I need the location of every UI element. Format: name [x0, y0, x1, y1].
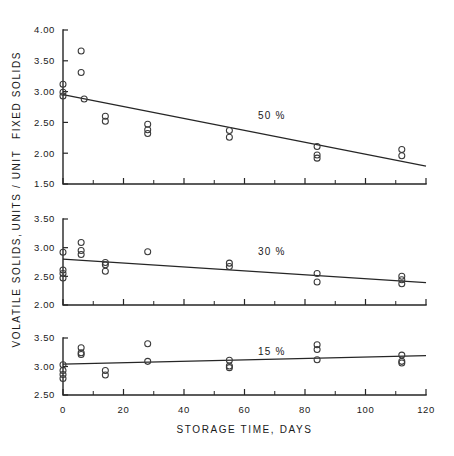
panel-15-data-point: [314, 357, 320, 363]
panel-50-data-point: [226, 127, 232, 133]
panel-30-data-point: [314, 279, 320, 285]
panel-50-data-point: [78, 70, 84, 76]
panel-30-annotation: 30 %: [258, 246, 286, 257]
panel-30-data-point: [102, 268, 108, 274]
panel-30-data-point: [78, 252, 84, 258]
panel-30-ytick-label: 3.50: [34, 213, 55, 224]
panel-30: 2.002.503.003.5030 %: [34, 213, 426, 310]
panel-50-data-point: [145, 130, 151, 136]
panel-15-data-point: [145, 341, 151, 347]
panel-50-ytick-label: 1.50: [34, 178, 55, 189]
x-tick-label: 40: [178, 404, 190, 415]
y-axis-title-line: FIXED SOLIDS: [11, 51, 22, 139]
panel-50-ytick-label: 3.00: [34, 86, 55, 97]
x-tick-label: 60: [239, 404, 251, 415]
panel-30-axes: [63, 219, 426, 305]
panel-50-annotation: 50 %: [258, 110, 286, 121]
panel-30-ytick-label: 3.00: [34, 242, 55, 253]
panel-15-data-point: [102, 372, 108, 378]
panel-15-trendline: [63, 356, 426, 365]
panel-50-data-point: [226, 134, 232, 140]
panel-50-axes: [63, 30, 426, 184]
panel-15-ytick-label: 3.50: [34, 332, 55, 343]
panel-15-ytick-label: 2.50: [34, 389, 55, 400]
panel-50-data-point: [399, 147, 405, 153]
panel-15: 2.503.003.5015 %: [34, 332, 426, 400]
scatter-plot-figure: 1.502.002.503.003.504.0050 %2.002.503.00…: [0, 0, 454, 456]
panel-30-ytick-label: 2.50: [34, 271, 55, 282]
panel-50-ytick-label: 2.00: [34, 148, 55, 159]
x-tick-label: 0: [60, 404, 66, 415]
panel-15-annotation: 15 %: [258, 346, 286, 357]
x-tick-label: 100: [357, 404, 375, 415]
panel-50-ytick-label: 3.50: [34, 55, 55, 66]
panel-15-data-point: [399, 352, 405, 358]
y-axis-title-line: UNITS / UNIT: [11, 150, 22, 231]
panel-30-ytick-label: 2.00: [34, 299, 55, 310]
figure-container: 1.502.002.503.003.504.0050 %2.002.503.00…: [0, 0, 454, 456]
panel-15-axes: [63, 338, 426, 395]
x-axis-title: STORAGE TIME, DAYS: [176, 424, 312, 435]
panel-50-ytick-label: 4.00: [34, 24, 55, 35]
y-axis-title: FIXED SOLIDSUNITS / UNITVOLATILE SOLIDS,: [11, 51, 22, 348]
panel-50-data-point: [78, 48, 84, 54]
panel-50-data-point: [399, 153, 405, 159]
x-tick-label: 120: [417, 404, 435, 415]
panel-30-data-point: [145, 249, 151, 255]
x-tick-label: 20: [118, 404, 130, 415]
panel-15-data-point: [314, 346, 320, 352]
panel-15-data-point: [145, 358, 151, 364]
x-axis-labels: 020406080100120STORAGE TIME, DAYS: [60, 404, 435, 435]
panel-15-ytick-label: 3.00: [34, 361, 55, 372]
panel-50-trendline: [63, 95, 426, 166]
y-axis-title-line: VOLATILE SOLIDS,: [11, 233, 22, 348]
panel-30-data-point: [78, 240, 84, 246]
x-tick-label: 80: [299, 404, 311, 415]
panel-30-trendline: [63, 259, 426, 283]
panel-50: 1.502.002.503.003.504.0050 %: [34, 24, 426, 189]
panel-50-ytick-label: 2.50: [34, 117, 55, 128]
